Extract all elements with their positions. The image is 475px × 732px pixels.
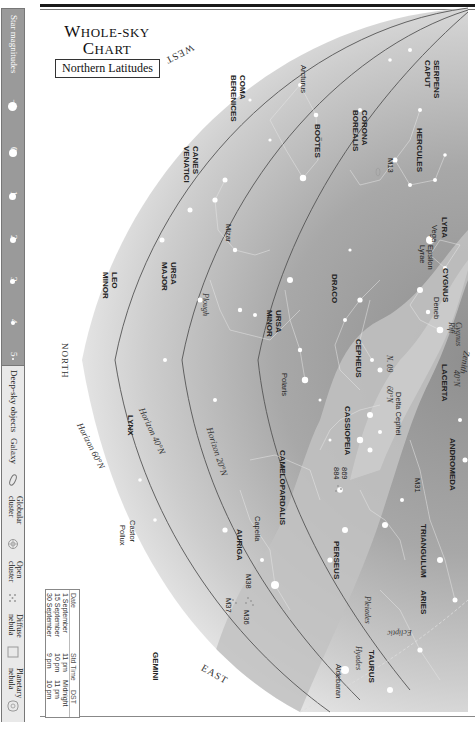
constellation-cepheus: CEPHEUS: [354, 339, 363, 378]
star-aldebaran: Aldebaran: [334, 664, 342, 698]
cluster-pleiades: Pleiades: [363, 596, 372, 624]
observation-time-table: Date Std Time DST 1 September 11 pm Midn…: [45, 589, 80, 718]
constellation-perseus: PERSEUS: [332, 541, 341, 579]
constellation-draco: DRACO: [330, 274, 339, 303]
constellation-cygnus: CYGNUS: [441, 268, 450, 302]
star-castor: Castor: [128, 520, 136, 542]
star-polaris: Polaris: [280, 373, 288, 396]
constellation-ursa-major: URSAMAJOR: [160, 262, 178, 291]
object-884: 884: [332, 467, 340, 480]
constellation-hercules: HERCULES: [415, 128, 424, 172]
star-capella: Capella: [253, 516, 261, 541]
table-cell: 9 pm: [46, 653, 53, 669]
table-header-date: Date: [70, 593, 77, 608]
table-divider: [69, 590, 70, 717]
n-marker-label: N. 09: [385, 355, 394, 372]
constellation-lyra: LYRA: [440, 217, 449, 238]
constellation-auriga: AURIGA: [235, 529, 244, 561]
table-header-dst: DST: [70, 690, 77, 704]
star-deneb: Deneb: [432, 297, 440, 319]
north-label: NORTH: [60, 343, 70, 378]
asterism-plough: Plough: [201, 293, 210, 316]
constellation-aries: ARIES: [419, 590, 428, 614]
constellation-coma-berenices: COMABERENICES: [229, 75, 247, 122]
constellation-lynx: LYNX: [126, 415, 135, 436]
table-cell: 1 September: [62, 593, 69, 633]
table-cell: 10 pm: [46, 680, 53, 699]
constellation-taurus: TAURUS: [367, 650, 376, 683]
constellation-gemini: GEMINI: [151, 652, 160, 680]
constellation-cassiopeia: CASSIOPEIA: [343, 406, 352, 455]
constellation-triangulum: TRIANGULUM: [419, 524, 428, 578]
object-m37: M37: [224, 598, 232, 613]
object-m38: M38: [244, 574, 252, 589]
table-cell: 15 September: [54, 593, 61, 637]
object-869: 869: [340, 467, 348, 480]
star-arcturus: Arcturus: [299, 65, 307, 93]
table-cell: 30 September: [46, 593, 53, 637]
zenith-60-label: 60°N: [385, 386, 394, 403]
cluster-hyades: Hyades: [354, 646, 363, 670]
constellation-ursa-minor: URSAMINOR: [265, 310, 283, 337]
constellation-leo-minor: LEOMINOR: [101, 272, 119, 299]
star-epsilon-lyrae: Epsilon Lyrae: [418, 245, 434, 265]
star-pollux: Pollux: [118, 525, 126, 545]
constellation-lacerta: LACERTA: [440, 364, 449, 402]
object-m31: M31: [413, 478, 421, 493]
table-cell: Midnight: [62, 680, 69, 706]
star-delta-cephei: Delta Cephei: [394, 392, 402, 435]
constellation-bootes: BOÖTES: [313, 124, 322, 158]
cygnus-rift-label: Cygnus Rift: [448, 322, 462, 340]
table-cell: 10 pm: [54, 653, 61, 672]
constellation-andromeda: ANDROMEDA: [448, 438, 457, 491]
ecliptic-label: Ecliptic: [387, 628, 412, 638]
zenith-40-label: 40°N: [452, 370, 461, 387]
object-m13: M13: [386, 158, 394, 173]
table-header-std-time: Std Time: [70, 653, 77, 681]
table-cell: 11 pm: [62, 653, 69, 672]
constellation-corona-borealis: CORONABOREALIS: [351, 110, 369, 151]
constellation-camelopardalis: CAMELOPARDALIS: [278, 450, 287, 525]
constellation-serpens-caput: SERPENSCAPUT: [423, 60, 441, 98]
star-vega: Vega: [430, 225, 438, 242]
constellation-canes-venatici: CANESVENATICI: [182, 146, 200, 183]
object-m36: M36: [242, 610, 250, 625]
star-mizar: Mizar: [224, 224, 232, 242]
table-cell: 11 pm: [54, 680, 61, 699]
